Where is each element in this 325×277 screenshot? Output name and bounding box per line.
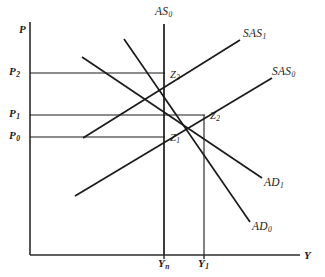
output-tick-yn-base: Y bbox=[158, 257, 165, 269]
price-tick-p1-sub: 1 bbox=[16, 112, 20, 121]
output-tick-yn-sub: n bbox=[165, 262, 169, 271]
price-tick-p1: P1 bbox=[9, 108, 20, 119]
curve-label-as0: AS0 bbox=[155, 6, 172, 18]
curve-label-as0-base: AS bbox=[155, 5, 168, 17]
y-axis-label: P bbox=[19, 24, 26, 35]
output-tick-yn: Yn bbox=[158, 258, 169, 269]
equilibrium-label-z1-sub: 1 bbox=[176, 136, 180, 145]
equilibrium-label-z3-sub: 3 bbox=[176, 73, 180, 82]
x-axis-label: Y bbox=[304, 250, 311, 261]
curve-label-ad1-sub: 1 bbox=[280, 181, 284, 190]
curve-label-sas0: SAS0 bbox=[272, 66, 295, 78]
curve-label-sas1-base: SAS bbox=[243, 27, 262, 39]
curve-label-sas0-base: SAS bbox=[272, 65, 291, 77]
equilibrium-label-z1: Z1 bbox=[170, 133, 180, 144]
curve-label-as0-sub: 0 bbox=[168, 10, 172, 19]
price-tick-p2: P2 bbox=[9, 66, 20, 77]
curve-label-sas1: SAS1 bbox=[243, 28, 266, 40]
price-tick-p1-base: P bbox=[9, 107, 16, 119]
price-tick-p2-base: P bbox=[9, 65, 16, 77]
curve-label-ad1: AD1 bbox=[264, 177, 284, 189]
price-tick-p0-sub: 0 bbox=[16, 134, 20, 143]
curve-label-sas1-sub: 1 bbox=[262, 32, 266, 41]
diagram-canvas bbox=[0, 0, 325, 277]
ad0-curve[interactable] bbox=[124, 39, 250, 222]
curve-label-ad1-base: AD bbox=[264, 176, 280, 188]
output-tick-y1-base: Y bbox=[198, 257, 205, 269]
curve-label-ad0-base: AD bbox=[252, 220, 268, 232]
price-tick-p0-base: P bbox=[9, 129, 16, 141]
price-tick-p2-sub: 2 bbox=[16, 70, 20, 79]
equilibrium-label-z3: Z3 bbox=[170, 70, 180, 81]
price-tick-p0: P0 bbox=[9, 130, 20, 141]
guide-lines-group bbox=[30, 73, 205, 255]
equilibrium-label-z2: Z2 bbox=[210, 111, 220, 122]
curve-label-sas0-sub: 0 bbox=[291, 70, 295, 79]
output-tick-y1-sub: 1 bbox=[205, 262, 209, 271]
as-ad-diagram: P Y P2 P1 P0 Yn Y1 AS0 SAS1 SAS0 AD1 AD0… bbox=[0, 0, 325, 277]
equilibrium-label-z2-sub: 2 bbox=[216, 114, 220, 123]
curve-label-ad0-sub: 0 bbox=[268, 225, 272, 234]
output-tick-y1: Y1 bbox=[198, 258, 209, 269]
curve-label-ad0: AD0 bbox=[252, 221, 272, 233]
sas1-curve[interactable] bbox=[83, 40, 240, 138]
